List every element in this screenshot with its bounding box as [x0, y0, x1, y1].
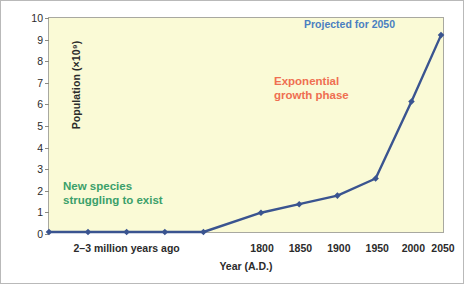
y-tick-label: 5 — [21, 121, 43, 132]
y-tick-label: 1 — [21, 207, 43, 218]
y-tick-label: 2 — [21, 186, 43, 197]
y-tick-label: 6 — [21, 99, 43, 110]
x-tick-label: 1850 — [289, 242, 312, 254]
population-growth-chart: 012345678910 Population (×10⁹) 180018501… — [0, 0, 464, 284]
annotation-new-species-line1: New species — [63, 179, 163, 193]
x-tick-label: 1950 — [366, 242, 389, 254]
series-marker — [85, 229, 92, 236]
y-tick-label: 0 — [21, 229, 43, 240]
annotation-new-species: New species struggling to exist — [63, 179, 163, 207]
series-marker — [296, 201, 303, 208]
series-marker — [200, 229, 207, 236]
x-tick-label: 1800 — [250, 242, 273, 254]
series-marker — [123, 229, 130, 236]
annotation-projected-2050: Projected for 2050 — [304, 18, 395, 31]
x-axis-span-label: 2–3 million years ago — [74, 242, 180, 254]
series-marker — [162, 229, 169, 236]
annotation-exponential-growth: Exponential growth phase — [274, 74, 349, 102]
plot-area: 012345678910 Population (×10⁹) 180018501… — [48, 17, 444, 233]
y-tick-label: 4 — [21, 142, 43, 153]
x-axis-title: Year (A.D.) — [49, 260, 443, 272]
x-tick-label: 2000 — [402, 242, 425, 254]
y-tick-label: 8 — [21, 56, 43, 67]
x-tick-label: 2050 — [431, 242, 454, 254]
x-tick-label: 1900 — [327, 242, 350, 254]
annotation-exponential-line1: Exponential — [274, 74, 349, 88]
annotation-new-species-line2: struggling to exist — [63, 193, 163, 207]
y-tick-label: 9 — [21, 34, 43, 45]
series-marker — [258, 209, 265, 216]
y-tick-label: 10 — [21, 13, 43, 24]
annotation-exponential-line2: growth phase — [274, 88, 349, 102]
y-tick-label: 7 — [21, 78, 43, 89]
y-tick-label: 3 — [21, 164, 43, 175]
